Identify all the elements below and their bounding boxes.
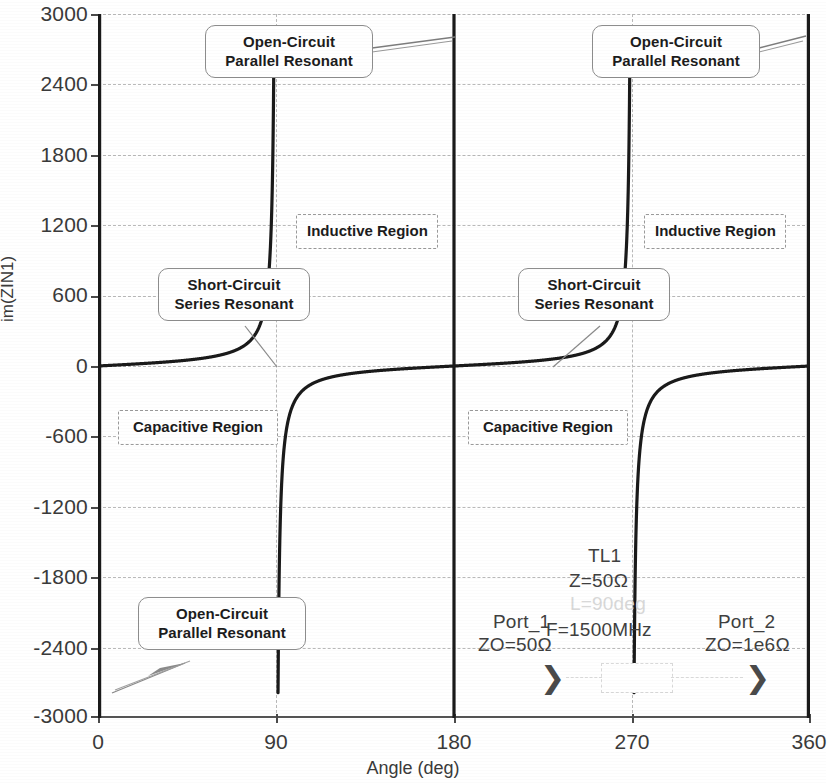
schematic-tl-length: L=90deg xyxy=(570,593,646,615)
callout-line-1: Short-Circuit xyxy=(169,275,299,294)
schematic-transmission-line-symbol xyxy=(601,663,673,693)
callout-line-2: Series Resonant xyxy=(169,294,299,313)
schematic-port2-arrow-icon: ❯ xyxy=(745,660,770,695)
callout-line-1: Short-Circuit xyxy=(529,275,659,294)
region-label-inductive-left: Inductive Region xyxy=(296,214,438,249)
region-label-capacitive-right: Capacitive Region xyxy=(468,410,628,445)
schematic-port1-arrow-icon: ❯ xyxy=(540,660,565,695)
schematic-port1-impedance: ZO=50Ω xyxy=(478,634,552,656)
callout-line-1: Open-Circuit xyxy=(216,32,362,51)
callout-open-circuit-parallel-resonant-bottom-left: Open-Circuit Parallel Resonant xyxy=(138,597,306,650)
schematic-wire-right xyxy=(671,677,743,678)
callout-short-circuit-series-resonant-right: Short-Circuit Series Resonant xyxy=(518,268,670,321)
schematic-tl-impedance: Z=50Ω xyxy=(569,570,628,592)
schematic-tl-frequency: F=1500MHz xyxy=(546,619,652,641)
callout-short-circuit-series-resonant-left: Short-Circuit Series Resonant xyxy=(158,268,310,321)
callout-line-1: Open-Circuit xyxy=(603,32,749,51)
callout-line-2: Series Resonant xyxy=(529,294,659,313)
callout-line-2: Parallel Resonant xyxy=(149,623,295,642)
callout-line-2: Parallel Resonant xyxy=(216,51,362,70)
schematic-port2-impedance: ZO=1e6Ω xyxy=(705,634,790,656)
schematic-port2-name: Port_2 xyxy=(718,611,775,633)
schematic-port1-name: Port_1 xyxy=(493,611,550,633)
region-label-inductive-right: Inductive Region xyxy=(644,214,786,249)
region-label-capacitive-left: Capacitive Region xyxy=(118,410,278,445)
callout-line-2: Parallel Resonant xyxy=(603,51,749,70)
callout-open-circuit-parallel-resonant-top-left: Open-Circuit Parallel Resonant xyxy=(205,25,373,78)
callout-line-1: Open-Circuit xyxy=(149,604,295,623)
schematic-wire-left xyxy=(566,677,602,678)
callout-open-circuit-parallel-resonant-top-right: Open-Circuit Parallel Resonant xyxy=(592,25,760,78)
schematic-tl-name: TL1 xyxy=(588,545,621,567)
